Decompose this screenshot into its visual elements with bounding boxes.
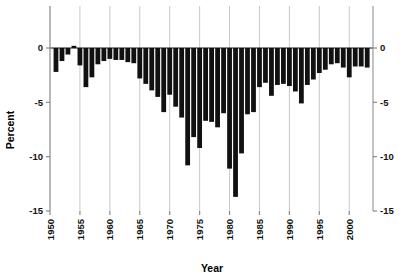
bar-1953 [66,48,71,55]
bar-1971 [173,48,178,107]
bar-1974 [191,48,196,137]
bar-1962 [119,48,124,60]
bar-1956 [84,48,89,87]
y-tick-label-left-0: 0 [38,42,43,53]
bar-1978 [215,48,220,127]
bar-1964 [131,48,136,63]
bar-2003 [365,48,370,68]
bar-1979 [221,48,226,113]
bar-2001 [353,48,358,66]
x-tick-label-1960: 1960 [104,219,115,240]
bar-1963 [125,48,130,62]
bar-1977 [209,48,214,122]
bar-1995 [317,48,322,73]
bar-1957 [90,48,95,77]
bar-1987 [269,48,274,96]
x-tick-label-1985: 1985 [254,218,265,240]
bar-1982 [239,48,244,153]
bar-1980 [227,48,232,169]
bar-1973 [185,48,190,165]
y-tick-label-right--5: -5 [380,97,389,108]
bar-1991 [293,48,298,91]
bar-1951 [54,48,59,72]
bar-1986 [263,48,268,83]
bar-1970 [167,48,172,95]
chart-container: 0-5-10-150-5-10-151950195519601965197019… [0,0,418,278]
bar-1952 [60,48,65,61]
x-tick-label-1950: 1950 [45,219,56,240]
bar-2002 [359,48,364,66]
bar-1960 [107,48,112,59]
x-tick-label-1970: 1970 [164,219,175,240]
bar-1988 [275,48,280,85]
bar-chart-svg: 0-5-10-150-5-10-151950195519601965197019… [0,0,418,278]
bar-1975 [197,48,202,148]
y-tick-label-left--5: -5 [35,97,44,108]
bar-1969 [161,48,166,112]
y-tick-label-right--10: -10 [380,151,394,162]
bar-1983 [245,48,250,114]
x-tick-label-1995: 1995 [314,218,325,240]
bar-1966 [143,48,148,84]
x-tick-label-1965: 1965 [134,218,145,240]
bar-1959 [101,48,106,61]
bar-1993 [305,48,310,85]
x-axis-title: Year [201,262,223,274]
x-tick-label-1955: 1955 [75,218,86,240]
bar-1985 [257,48,262,87]
bar-1989 [281,48,286,84]
y-tick-label-left--15: -15 [29,205,43,216]
bar-1990 [287,48,292,86]
bar-1965 [137,48,142,78]
y-tick-label-left--10: -10 [29,151,43,162]
bar-1997 [329,48,334,64]
y-tick-label-right-0: 0 [380,42,385,53]
x-tick-label-1975: 1975 [194,218,205,240]
bar-1972 [179,48,184,118]
x-tick-label-1980: 1980 [224,219,235,240]
bar-1999 [341,48,346,68]
bar-1981 [233,48,238,197]
bar-1958 [95,48,100,64]
bar-1955 [78,48,83,65]
bar-1967 [149,48,154,90]
bar-1996 [323,48,328,70]
bar-1984 [251,48,256,112]
bar-2000 [347,48,352,77]
x-tick-label-1990: 1990 [284,219,295,240]
bar-1961 [113,48,118,60]
y-tick-label-right--15: -15 [380,205,394,216]
y-axis-title: Percent [4,110,16,149]
bar-1968 [155,48,160,97]
bar-1992 [299,48,304,103]
bar-1998 [335,48,340,63]
bar-1976 [203,48,208,121]
bars-group [54,46,370,197]
x-tick-label-2000: 2000 [344,219,355,240]
bar-1994 [311,48,316,80]
